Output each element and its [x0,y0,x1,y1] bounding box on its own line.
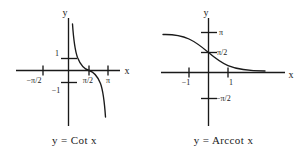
figure-root: −π/2 π/2 π 1 −1 y x y = Cot x [0,0,298,166]
arccot-plot: −1 1 π π/2 −π/2 y x [149,0,298,140]
arccot-label-pi: π [219,28,223,37]
cot-caption: y = Cot x [0,134,149,146]
cot-label-neg-half-pi: −π/2 [27,76,42,85]
arccot-label-neg-half-pi: −π/2 [216,94,231,103]
arccot-label-one: 1 [229,78,233,87]
cot-x-axis-label: x [125,65,130,76]
cot-label-neg-one: −1 [52,86,61,95]
panel-cot: −π/2 π/2 π 1 −1 y x y = Cot x [0,0,149,166]
arccot-y-axis-label: y [204,7,209,18]
arccot-x-axis-label: x [289,69,294,80]
cot-label-one: 1 [55,49,59,58]
arccot-label-half-pi: π/2 [217,48,227,57]
arccot-caption: y = Arccot x [149,134,298,146]
cot-plot: −π/2 π/2 π 1 −1 y x [0,0,149,140]
cot-label-pi: π [106,76,110,85]
cot-y-axis-label: y [63,7,68,18]
panel-arccot: −1 1 π π/2 −π/2 y x y = Arccot x [149,0,298,166]
arccot-label-neg-one: −1 [182,78,191,87]
cot-label-half-pi: π/2 [83,76,93,85]
